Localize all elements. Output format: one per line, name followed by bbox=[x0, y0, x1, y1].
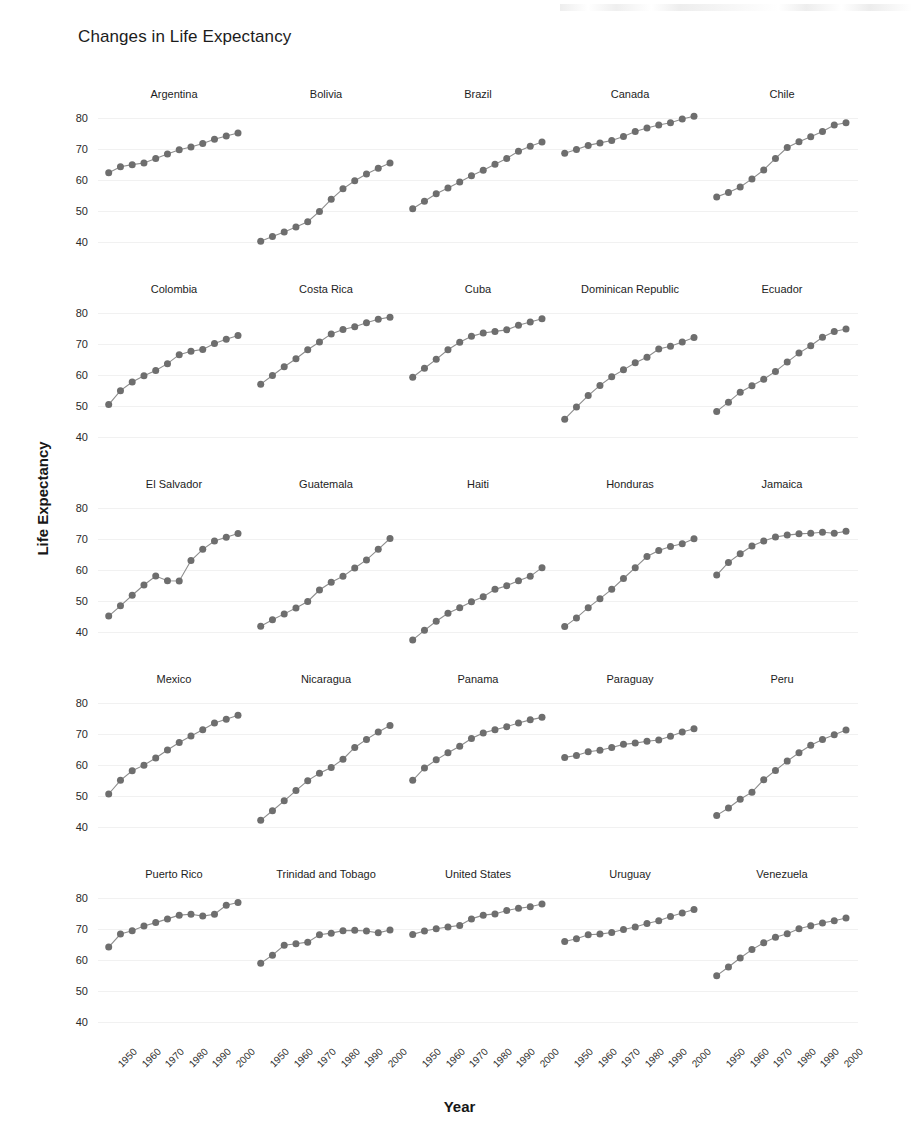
plot-area bbox=[98, 301, 250, 453]
x-tick-label: 1980 bbox=[338, 1046, 362, 1070]
data-series-guatemala bbox=[250, 496, 402, 648]
figure-canvas: Changes in Life Expectancy Life Expectan… bbox=[0, 0, 919, 1148]
y-tick-label: 80 bbox=[64, 307, 88, 319]
x-tick-label: 1980 bbox=[794, 1046, 818, 1070]
data-series-paraguay bbox=[554, 691, 706, 843]
panel-title: Bolivia bbox=[250, 88, 402, 100]
facet-panel-jamaica: Jamaica bbox=[706, 478, 858, 648]
y-tick-label: 70 bbox=[64, 143, 88, 155]
x-tick-label: 1980 bbox=[642, 1046, 666, 1070]
x-tick-label: 1950 bbox=[572, 1046, 596, 1070]
panel-title: Dominican Republic bbox=[554, 283, 706, 295]
facet-panel-haiti: Haiti bbox=[402, 478, 554, 648]
data-series-honduras bbox=[554, 496, 706, 648]
data-series-canada bbox=[554, 106, 706, 258]
y-tick-label: 80 bbox=[64, 112, 88, 124]
x-tick-label: 1970 bbox=[467, 1046, 491, 1070]
plot-area bbox=[706, 106, 858, 258]
plot-area bbox=[402, 106, 554, 258]
data-series-trinidad-and-tobago bbox=[250, 886, 402, 1038]
data-series-united-states bbox=[402, 886, 554, 1038]
data-series-el-salvador bbox=[98, 496, 250, 648]
panel-title: Mexico bbox=[98, 673, 250, 685]
x-tick-label: 2000 bbox=[233, 1046, 257, 1070]
panel-title: Honduras bbox=[554, 478, 706, 490]
facet-panel-nicaragua: Nicaragua bbox=[250, 673, 402, 843]
panel-title: Haiti bbox=[402, 478, 554, 490]
data-series-nicaragua bbox=[250, 691, 402, 843]
facet-panel-cuba: Cuba bbox=[402, 283, 554, 453]
x-tick-label: 1960 bbox=[747, 1046, 771, 1070]
data-series-puerto-rico bbox=[98, 886, 250, 1038]
y-tick-label: 40 bbox=[64, 431, 88, 443]
y-tick-label: 40 bbox=[64, 236, 88, 248]
plot-area bbox=[554, 106, 706, 258]
y-tick-label: 40 bbox=[64, 821, 88, 833]
x-tick-label: 1950 bbox=[268, 1046, 292, 1070]
x-tick-label: 1950 bbox=[420, 1046, 444, 1070]
panel-title: Paraguay bbox=[554, 673, 706, 685]
facet-panel-uruguay: Uruguay bbox=[554, 868, 706, 1038]
plot-area bbox=[250, 691, 402, 843]
x-tick-label: 1960 bbox=[595, 1046, 619, 1070]
x-tick-label: 1980 bbox=[186, 1046, 210, 1070]
facet-panel-dominican-republic: Dominican Republic bbox=[554, 283, 706, 453]
x-tick-label: 1960 bbox=[139, 1046, 163, 1070]
y-tick-label: 50 bbox=[64, 400, 88, 412]
facet-panel-mexico: Mexico bbox=[98, 673, 250, 843]
data-series-colombia bbox=[98, 301, 250, 453]
data-series-venezuela bbox=[706, 886, 858, 1038]
y-tick-label: 50 bbox=[64, 790, 88, 802]
facet-panel-costa-rica: Costa Rica bbox=[250, 283, 402, 453]
y-tick-label: 60 bbox=[64, 174, 88, 186]
panel-title: Jamaica bbox=[706, 478, 858, 490]
y-tick-label: 60 bbox=[64, 759, 88, 771]
panel-title: Ecuador bbox=[706, 283, 858, 295]
y-tick-label: 40 bbox=[64, 626, 88, 638]
panel-title: Canada bbox=[554, 88, 706, 100]
facet-panel-puerto-rico: Puerto Rico bbox=[98, 868, 250, 1038]
data-series-dominican-republic bbox=[554, 301, 706, 453]
facet-panel-trinidad-and-tobago: Trinidad and Tobago bbox=[250, 868, 402, 1038]
plot-area bbox=[402, 301, 554, 453]
data-series-cuba bbox=[402, 301, 554, 453]
panel-title: Puerto Rico bbox=[98, 868, 250, 880]
plot-area bbox=[706, 301, 858, 453]
plot-area bbox=[98, 496, 250, 648]
x-tick-label: 1970 bbox=[771, 1046, 795, 1070]
y-tick-label: 60 bbox=[64, 564, 88, 576]
panel-title: Brazil bbox=[402, 88, 554, 100]
facet-panel-chile: Chile bbox=[706, 88, 858, 258]
x-tick-label: 1970 bbox=[163, 1046, 187, 1070]
plot-area bbox=[250, 301, 402, 453]
x-tick-label: 1990 bbox=[210, 1046, 234, 1070]
y-tick-label: 60 bbox=[64, 954, 88, 966]
scan-artifact bbox=[560, 4, 912, 11]
facet-panel-honduras: Honduras bbox=[554, 478, 706, 648]
x-tick-label: 1950 bbox=[116, 1046, 140, 1070]
data-series-brazil bbox=[402, 106, 554, 258]
panel-title: United States bbox=[402, 868, 554, 880]
facet-panel-paraguay: Paraguay bbox=[554, 673, 706, 843]
panel-title: Venezuela bbox=[706, 868, 858, 880]
plot-area bbox=[554, 496, 706, 648]
panel-title: Peru bbox=[706, 673, 858, 685]
plot-area bbox=[98, 886, 250, 1038]
data-series-jamaica bbox=[706, 496, 858, 648]
data-series-mexico bbox=[98, 691, 250, 843]
facet-panel-peru: Peru bbox=[706, 673, 858, 843]
x-tick-label: 2000 bbox=[537, 1046, 561, 1070]
chart-title: Changes in Life Expectancy bbox=[78, 27, 291, 47]
y-tick-label: 80 bbox=[64, 697, 88, 709]
data-series-bolivia bbox=[250, 106, 402, 258]
y-tick-label: 80 bbox=[64, 892, 88, 904]
x-axis-label: Year bbox=[0, 1098, 919, 1115]
plot-area bbox=[554, 301, 706, 453]
facet-panel-colombia: Colombia bbox=[98, 283, 250, 453]
y-tick-label: 50 bbox=[64, 205, 88, 217]
y-axis-label: Life Expectancy bbox=[34, 419, 51, 579]
y-tick-label: 50 bbox=[64, 985, 88, 997]
panel-title: Uruguay bbox=[554, 868, 706, 880]
y-tick-label: 70 bbox=[64, 533, 88, 545]
facet-panel-panama: Panama bbox=[402, 673, 554, 843]
